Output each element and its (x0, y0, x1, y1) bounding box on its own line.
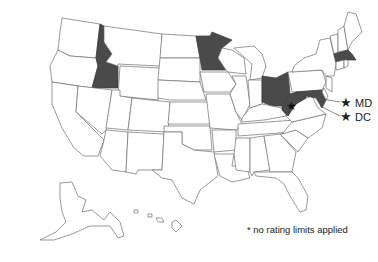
state-pennsylvania (288, 70, 326, 92)
state-indiana (248, 80, 262, 108)
state-mississippi (234, 138, 250, 172)
footnote: * no rating limits applied (247, 224, 348, 235)
state-hawaii (134, 210, 182, 232)
state-connecticut (336, 60, 344, 70)
state-nebraska (158, 80, 206, 100)
wv-star-icon: ★ (286, 100, 297, 112)
state-montana (104, 26, 162, 66)
state-iowa (200, 72, 236, 92)
callout-md-label: MD (355, 97, 372, 109)
state-wyoming (118, 66, 160, 100)
state-maine (344, 12, 362, 50)
state-florida (254, 172, 308, 212)
state-north-dakota (160, 34, 200, 58)
state-alaska (40, 182, 124, 240)
state-washington (58, 18, 100, 58)
star-icon: ★ (340, 95, 352, 110)
state-new-jersey (326, 76, 332, 92)
state-arkansas (212, 130, 236, 152)
callout-dc: ★DC (340, 110, 371, 123)
state-south-dakota (158, 58, 200, 82)
state-arizona (100, 130, 128, 172)
callout-dc-label: DC (355, 111, 371, 123)
state-rhode-island (344, 60, 348, 68)
state-new-mexico (126, 132, 164, 174)
star-icon: ★ (340, 109, 352, 124)
state-kansas (168, 102, 210, 124)
us-map (0, 0, 378, 262)
callout-md: ★MD (340, 96, 372, 109)
state-new-york (292, 38, 336, 76)
